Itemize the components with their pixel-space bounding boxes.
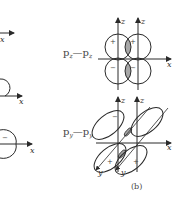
- orbital-overlap-figure: x x − x pz—pz z z x + + − −: [0, 0, 186, 199]
- bottom-diagram-label: py—py: [63, 126, 93, 139]
- lobe-upper-right: [126, 102, 168, 142]
- sign-minus: −: [2, 134, 8, 142]
- z-axis-label-1: z: [120, 17, 126, 26]
- svg-text:py—py: py—py: [63, 126, 93, 139]
- z-axis-label-2: z: [140, 17, 146, 26]
- x-axis-label: x: [167, 143, 172, 152]
- sign-plus: +: [130, 38, 136, 46]
- sign-plus: +: [107, 158, 113, 166]
- sign-minus: −: [130, 64, 136, 72]
- svg-text:pz—pz: pz—pz: [63, 47, 93, 59]
- orbital-lobe: [0, 79, 10, 96]
- sign-minus: −: [110, 64, 116, 72]
- y-axis-label-2: y: [120, 168, 126, 177]
- left-partial-panel: x x − x: [0, 33, 35, 158]
- y-axis-label-1: y: [97, 168, 103, 177]
- sign-plus: +: [110, 38, 116, 46]
- sign-minus: −: [112, 113, 118, 121]
- x-axis-label: x: [167, 60, 172, 69]
- sign-plus: +: [133, 158, 139, 166]
- py-py-diagram: z z x y y − + +: [87, 96, 172, 180]
- x-axis-label: x: [0, 35, 5, 44]
- z-axis-label-2: z: [139, 96, 145, 105]
- figure-caption: (b): [131, 182, 142, 191]
- top-diagram-label: pz—pz: [63, 47, 93, 59]
- x-axis-label: x: [30, 146, 35, 155]
- x-axis-label: x: [19, 97, 24, 106]
- pz-pz-diagram: z z x + + − −: [98, 17, 172, 90]
- z-axis-label-1: z: [120, 96, 126, 105]
